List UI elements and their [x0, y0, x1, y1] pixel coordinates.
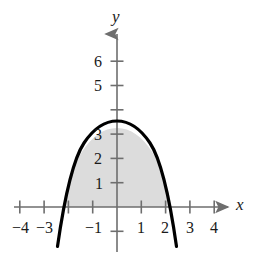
- y-tick-label-6: 6: [94, 54, 102, 70]
- y-tick-label-5: 5: [94, 78, 102, 94]
- parabola-figure: y x −4 −3 −1 1 2 3 4 6 5 3 2 1: [0, 0, 257, 267]
- x-tick-label-3: 3: [186, 220, 194, 236]
- x-tick-label-neg3: −3: [36, 220, 53, 236]
- x-tick-label-4: 4: [210, 220, 218, 236]
- y-tick-label-2: 2: [94, 151, 102, 167]
- x-tick-label-neg4: −4: [12, 220, 29, 236]
- y-axis-label: y: [112, 8, 120, 25]
- x-tick-label-2: 2: [161, 220, 169, 236]
- x-tick-label-1: 1: [137, 220, 145, 236]
- x-tick-label-neg1: −1: [85, 220, 102, 236]
- x-axis-label: x: [236, 196, 244, 213]
- y-tick-label-3: 3: [94, 127, 102, 143]
- y-tick-label-1: 1: [95, 176, 103, 192]
